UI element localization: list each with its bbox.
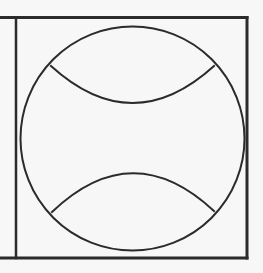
diagram-svg xyxy=(0,0,263,273)
ball-seam-lower xyxy=(52,173,214,212)
ball-seam-upper xyxy=(51,66,214,103)
ball-outline xyxy=(21,27,245,251)
ball-diagram xyxy=(0,0,263,273)
